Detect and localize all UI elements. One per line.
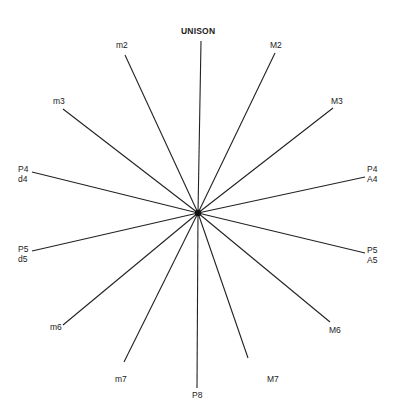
spoke-canvas [0,0,401,418]
interval-label-line: m2 [116,40,128,50]
interval-label-p4-d4: P4d4 [18,164,28,184]
interval-label-line: A5 [367,255,377,265]
spoke-line-m7 [198,213,248,358]
interval-label-p5-d5: P5d5 [18,244,28,264]
spoke-line-p8 [197,213,198,388]
spoke-line-m2 [198,53,275,213]
interval-label-line: d4 [18,174,28,184]
interval-label-p8: P8 [192,390,202,400]
interval-label-m2: M2 [270,40,282,50]
interval-label-line: m3 [53,96,65,106]
interval-label-line: P5 [367,245,377,255]
interval-label-line: P4 [18,164,28,174]
interval-label-line: d5 [18,254,28,264]
interval-label-line: A4 [367,174,377,184]
interval-label-line: M6 [329,325,341,335]
interval-label-line: P4 [367,164,377,174]
interval-label-p4-a4: P4A4 [367,164,377,184]
interval-label-m7: m7 [115,374,127,384]
interval-label-m3: M3 [331,96,343,106]
spoke-line-m7 [124,213,198,362]
spoke-line-unison [198,41,201,213]
interval-label-m6: M6 [329,325,341,335]
interval-label-line: M2 [270,40,282,50]
interval-label-line: M7 [267,374,279,384]
spoke-line-p4-a4 [198,177,365,213]
interval-label-p5-a5: P5A5 [367,245,377,265]
interval-label-line: M3 [331,96,343,106]
spoke-line-m6 [63,213,198,325]
interval-label-line: P8 [192,390,202,400]
interval-label-m6: m6 [50,322,62,332]
spoke-line-m3 [198,108,333,213]
interval-label-line: m7 [115,374,127,384]
interval-label-m7: M7 [267,374,279,384]
spoke-line-p5-d5 [32,213,198,251]
interval-label-line: UNISON [181,26,215,36]
interval-label-m3: m3 [53,96,65,106]
interval-label-line: m6 [50,322,62,332]
center-hub [195,210,201,216]
spoke-line-m2 [125,55,198,213]
interval-label-line: P5 [18,244,28,254]
spoke-line-m3 [63,109,198,213]
interval-label-unison: UNISON [181,26,215,36]
interval-label-m2: m2 [116,40,128,50]
spoke-line-p4-d4 [32,172,198,213]
